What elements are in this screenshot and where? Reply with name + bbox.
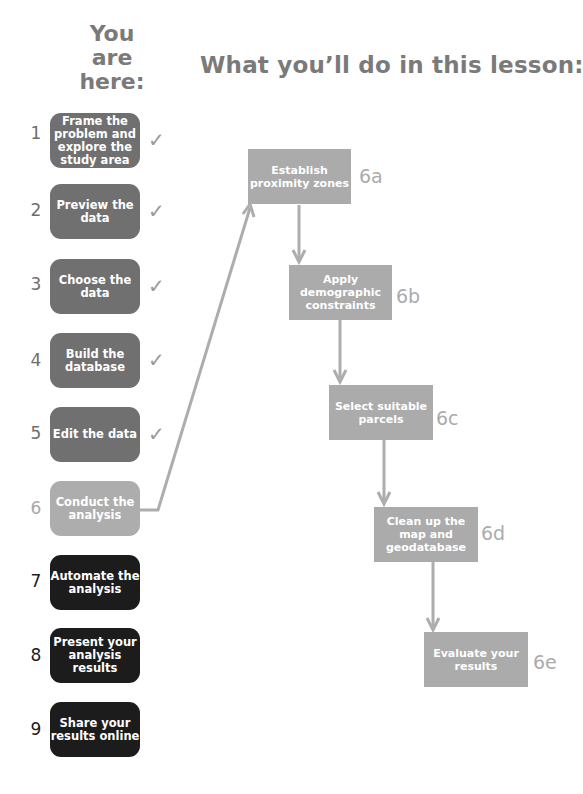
step-6-current[interactable]: Conduct the analysis: [50, 481, 140, 536]
check-icon-2: ✓: [148, 199, 165, 223]
step-number-4: 4: [28, 350, 44, 370]
substep-id-6c: 6c: [436, 407, 459, 429]
step-number-1: 1: [28, 123, 44, 143]
step-number-2: 2: [28, 200, 44, 220]
step-3[interactable]: Choose the data: [50, 259, 140, 314]
substep-id-6b: 6b: [396, 285, 420, 307]
step-4[interactable]: Build the database: [50, 333, 140, 388]
step-number-5: 5: [28, 423, 44, 443]
step-number-3: 3: [28, 274, 44, 294]
substep-6b[interactable]: Apply demographic constraints: [289, 265, 392, 320]
check-icon-1: ✓: [148, 128, 165, 152]
step-5[interactable]: Edit the data: [50, 407, 140, 462]
step-2[interactable]: Preview the data: [50, 184, 140, 239]
step-9[interactable]: Share your results online: [50, 702, 140, 757]
substep-6c[interactable]: Select suitable parcels: [329, 385, 433, 440]
substep-id-6d: 6d: [481, 522, 505, 544]
substep-6a[interactable]: Establish proximity zones: [248, 149, 351, 204]
step-1[interactable]: Frame the problem and explore the study …: [50, 113, 140, 168]
substep-id-6e: 6e: [533, 651, 557, 673]
substep-id-6a: 6a: [359, 165, 383, 187]
substep-6d[interactable]: Clean up the map and geodatabase: [374, 507, 478, 562]
step-number-8: 8: [28, 645, 44, 665]
check-icon-4: ✓: [148, 348, 165, 372]
step-8[interactable]: Present your analysis results: [50, 628, 140, 683]
step-number-6: 6: [28, 498, 44, 518]
check-icon-5: ✓: [148, 422, 165, 446]
step-7[interactable]: Automate the analysis: [50, 555, 140, 610]
substep-6e[interactable]: Evaluate your results: [424, 632, 528, 687]
check-icon-3: ✓: [148, 274, 165, 298]
step-number-9: 9: [28, 719, 44, 739]
step-number-7: 7: [28, 571, 44, 591]
